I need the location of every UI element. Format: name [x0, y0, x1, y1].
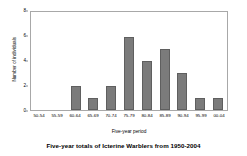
y-tick-mark	[26, 11, 28, 12]
x-tick-label: 85-89	[156, 114, 174, 118]
plot-area	[30, 11, 228, 111]
x-tick-label: 50-54	[30, 114, 48, 118]
x-tick-label: 95-99	[192, 114, 210, 118]
y-tick-mark	[26, 111, 28, 112]
bar-series	[31, 12, 227, 110]
bar-slot	[191, 12, 209, 110]
bar	[213, 98, 223, 110]
y-tick-mark	[26, 61, 28, 62]
bar-slot	[120, 12, 138, 110]
bar	[88, 98, 98, 110]
x-tick-label: 75-79	[120, 114, 138, 118]
x-axis-title: Five-year period	[30, 130, 228, 135]
x-tick-label: 80-84	[138, 114, 156, 118]
bar-slot	[102, 12, 120, 110]
bar-slot	[156, 12, 174, 110]
bar-slot	[49, 12, 67, 110]
bar-slot	[31, 12, 49, 110]
chart-figure: Number of individuals 02468 50-5455-5960…	[0, 0, 247, 156]
y-tick-mark	[26, 86, 28, 87]
x-tick-label: 55-59	[48, 114, 66, 118]
x-tick-label: 60-64	[66, 114, 84, 118]
x-tick-label: 00-04	[210, 114, 228, 118]
x-tick-label: 65-69	[84, 114, 102, 118]
bar-slot	[174, 12, 192, 110]
bar-slot	[67, 12, 85, 110]
x-tick-label: 90-94	[174, 114, 192, 118]
y-axis-tick-labels: 02468	[18, 11, 28, 111]
bar	[124, 37, 134, 111]
bar-slot	[138, 12, 156, 110]
bar	[160, 49, 170, 110]
x-axis-tick-labels: 50-5455-5960-6465-6970-7475-7980-8485-89…	[30, 114, 228, 118]
bar	[71, 86, 81, 111]
bar	[177, 73, 187, 110]
y-tick-mark	[26, 36, 28, 37]
bar	[106, 86, 116, 111]
bar	[142, 61, 152, 110]
y-axis-title: Number of individuals	[13, 11, 18, 107]
bar-slot	[84, 12, 102, 110]
chart-caption: Five-year totals of Icterine Warblers fr…	[0, 143, 247, 149]
bar-slot	[209, 12, 227, 110]
bar	[195, 98, 205, 110]
x-tick-label: 70-74	[102, 114, 120, 118]
